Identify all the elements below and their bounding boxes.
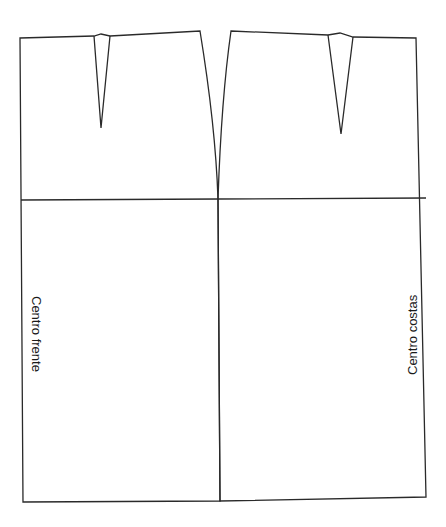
front-center-label: Centro frente <box>29 296 44 372</box>
front-outline <box>20 31 220 502</box>
back-piece <box>218 31 426 501</box>
skirt-pattern-diagram: Centro frente Centro costas <box>0 0 446 527</box>
back-dart <box>328 35 353 134</box>
front-dart <box>94 36 110 128</box>
back-hip-line <box>218 198 426 199</box>
back-center-label: Centro costas <box>405 294 420 375</box>
front-piece <box>20 31 220 502</box>
front-hip-line <box>21 199 218 200</box>
back-outline <box>218 31 426 501</box>
